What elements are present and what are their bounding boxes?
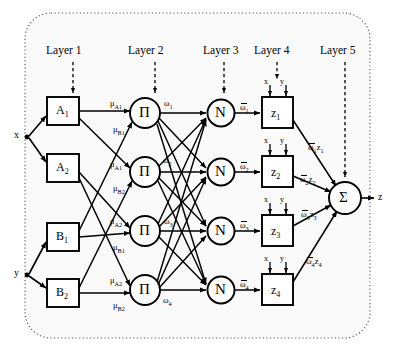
edge-label-mu-b1-r1: μB1 [113, 125, 125, 136]
node-label-pi-3: Π [139, 223, 150, 238]
edge-label-weighted-3: ω3z3 [301, 210, 317, 221]
node-label-n-3: N [215, 223, 226, 238]
edge-label-omega-bar-4: ω4 [240, 280, 249, 291]
edge-label-mu-a1-r2: μA1 [110, 160, 122, 171]
layer-label-4: Layer 4 [254, 45, 289, 57]
node-label-B1: B1 [56, 230, 68, 245]
edge-label-omega-4: ω4 [163, 296, 172, 307]
xy-label-y-3: y [280, 196, 284, 204]
edge-label-mu-a2-r4: μA2 [110, 276, 122, 287]
xy-label-y-2: y [280, 137, 284, 145]
node-label-A1: A1 [56, 104, 69, 119]
xy-label-x-1: x [264, 78, 268, 86]
edge-label-mu-b2-r2: μB2 [113, 184, 125, 195]
xy-label-y-1: y [280, 78, 284, 86]
edge-label-mu-b1-r3: μB1 [113, 243, 125, 254]
edge-label-omega-3: ω3 [164, 217, 173, 228]
edge-label-mu-b2-r4: μB2 [113, 301, 125, 312]
input-label-y: y [14, 268, 19, 278]
node-label-n-1: N [215, 105, 226, 120]
node-label-z1: z1 [271, 107, 280, 122]
xy-label-x-4: x [264, 255, 268, 263]
layer-label-3: Layer 3 [203, 45, 238, 57]
edge-label-weighted-4: ω4z4 [306, 257, 322, 268]
input-dot-y [25, 273, 30, 278]
edge-label-omega-bar-1: ω1 [240, 103, 249, 114]
layer-label-2: Layer 2 [128, 45, 163, 57]
xy-label-x-2: x [264, 137, 268, 145]
xy-label-x-3: x [264, 196, 268, 204]
node-label-z4: z4 [271, 284, 280, 299]
node-label-B2: B2 [56, 286, 68, 301]
node-label-sigma: Σ [339, 190, 348, 205]
layer-label-1: Layer 1 [46, 45, 81, 57]
node-label-n-2: N [215, 164, 226, 179]
node-label-z2: z2 [271, 166, 280, 181]
edge-label-omega-bar-3: ω3 [240, 221, 249, 232]
edge-label-omega-1: ω1 [164, 99, 173, 110]
edge-label-omega-bar-2: ω2 [240, 162, 249, 173]
xy-label-y-4: y [280, 255, 284, 263]
edge-label-weighted-2: ω2z2 [300, 175, 316, 186]
anfis-diagram: Layer 1 Layer 2 Layer 3 Layer 4 Layer 5 … [0, 0, 393, 358]
edge-label-mu-a1-r1: μA1 [110, 99, 122, 110]
node-label-n-4: N [215, 282, 226, 297]
layer-label-5: Layer 5 [320, 45, 355, 57]
input-label-x: x [14, 130, 19, 140]
edge-label-omega-2: ω2 [163, 156, 172, 167]
input-dot-x [25, 135, 30, 140]
output-label-z: z [378, 192, 382, 202]
node-label-pi-2: Π [139, 164, 150, 179]
edge-label-weighted-1: ω1z1 [308, 143, 324, 154]
node-label-A2: A2 [56, 161, 69, 176]
node-label-pi-1: Π [139, 105, 150, 120]
edge-label-mu-a2-r3: μA2 [110, 217, 122, 228]
node-label-z3: z3 [271, 225, 280, 240]
node-label-pi-4: Π [139, 282, 150, 297]
